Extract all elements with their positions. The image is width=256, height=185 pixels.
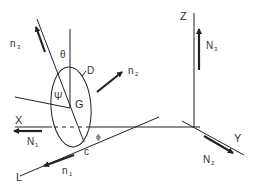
svg-text:3: 3	[17, 44, 21, 50]
svg-text:2: 2	[135, 71, 139, 77]
n2-label: n 2	[128, 65, 139, 77]
svg-text:N: N	[206, 40, 213, 51]
N3-label: N 3	[206, 40, 218, 52]
z-axis-label: Z	[180, 10, 187, 22]
phi-label: ϕ	[96, 132, 101, 141]
svg-text:n: n	[10, 38, 16, 49]
n3-axis	[37, 19, 84, 142]
svg-text:N: N	[203, 154, 210, 165]
point-g-label: G	[75, 98, 84, 110]
n3-arrow	[36, 27, 45, 52]
n1-label: n 1	[62, 165, 73, 177]
svg-text:n: n	[62, 165, 68, 176]
N2-label: N 2	[203, 154, 215, 166]
theta-label: θ	[60, 49, 66, 60]
svg-text:1: 1	[69, 171, 73, 177]
x-axis-label: X	[15, 114, 23, 126]
y-axis-label: Y	[234, 132, 242, 144]
svg-text:n: n	[128, 65, 134, 76]
svg-text:2: 2	[211, 160, 215, 166]
svg-text:1: 1	[35, 142, 39, 148]
l-line-label: L	[16, 171, 22, 183]
n2-arrow	[97, 72, 122, 92]
diagram-canvas: Z X Y L N 3 N 2 N 1 n 3 n 2 n 1 θ Ψ ϕ G …	[0, 0, 256, 185]
n3-label: n 3	[10, 38, 21, 50]
N1-label: N 1	[27, 136, 39, 148]
psi-label: Ψ	[54, 91, 62, 102]
svg-text:3: 3	[214, 46, 218, 52]
svg-text:N: N	[27, 136, 34, 147]
N2-arrow	[204, 136, 233, 153]
point-d-label: D	[87, 65, 94, 76]
n1-arrow	[44, 155, 74, 166]
d-marker-tick	[82, 71, 86, 76]
point-c-label: c	[84, 146, 89, 157]
